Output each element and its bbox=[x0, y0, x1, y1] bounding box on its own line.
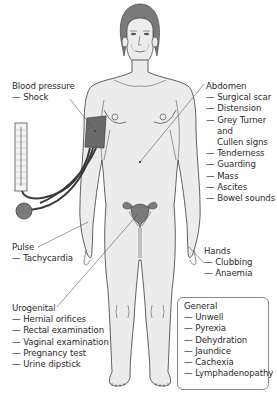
label-item: — Jaundice bbox=[184, 346, 268, 357]
label-title: General bbox=[184, 301, 268, 312]
label-title: Urogenital bbox=[12, 303, 109, 314]
label-urogenital: Urogenital — Hernial orifices — Rectal e… bbox=[12, 303, 109, 370]
label-title: Blood pressure bbox=[12, 81, 75, 92]
label-item: — Distension bbox=[206, 103, 275, 114]
bulb bbox=[16, 203, 32, 219]
label-title: Hands bbox=[204, 246, 252, 257]
label-item: — Vaginal examination bbox=[12, 337, 109, 348]
label-item: — Guarding bbox=[206, 159, 275, 170]
label-item: — Shock bbox=[12, 92, 75, 103]
general-box: General — Unwell — Pyrexia — Dehydration… bbox=[177, 297, 269, 390]
eye-left bbox=[131, 33, 136, 36]
label-item: — Tenderness bbox=[206, 148, 275, 159]
label-item: — Clubbing bbox=[204, 257, 252, 268]
eye-right bbox=[144, 33, 149, 36]
label-item: — Pregnancy test bbox=[12, 348, 109, 359]
label-item: — Dehydration bbox=[184, 335, 268, 346]
label-hands: Hands — Clubbing — Anaemia bbox=[204, 246, 252, 280]
label-item: — Bowel sounds bbox=[206, 193, 275, 204]
label-item: — Urine dipstick bbox=[12, 359, 109, 370]
label-pulse: Pulse — Tachycardia bbox=[12, 242, 73, 264]
label-item: — Pyrexia bbox=[184, 323, 268, 334]
label-item: — Grey Turner bbox=[206, 115, 275, 126]
label-title: Abdomen bbox=[206, 81, 275, 92]
label-blood-pressure: Blood pressure — Shock bbox=[12, 81, 75, 103]
bp-cuff bbox=[85, 116, 106, 148]
label-item: — Mass bbox=[206, 171, 275, 182]
label-item: — Tachycardia bbox=[12, 253, 73, 264]
label-item: — Lymphadenopathy bbox=[184, 368, 268, 379]
label-title: Pulse bbox=[12, 242, 73, 253]
label-item: — Rectal examination bbox=[12, 325, 109, 336]
label-item: — Unwell bbox=[184, 312, 268, 323]
face bbox=[127, 18, 153, 64]
label-item: — Ascites bbox=[206, 182, 275, 193]
label-item: — Cachexia bbox=[184, 357, 268, 368]
label-item: — Surgical scar bbox=[206, 92, 275, 103]
label-item: and bbox=[206, 126, 275, 137]
label-item: Cullen signs bbox=[206, 137, 275, 148]
label-item: — Anaemia bbox=[204, 268, 252, 279]
label-item: — Hernial orifices bbox=[12, 314, 109, 325]
label-abdomen: Abdomen — Surgical scar — Distension — G… bbox=[206, 81, 275, 204]
